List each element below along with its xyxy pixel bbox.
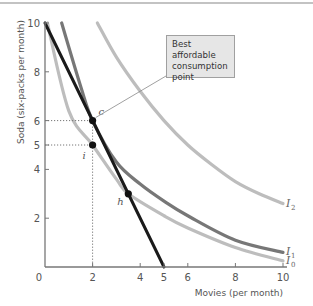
y-axis-title: Soda (six-packs per month) [16, 20, 26, 144]
curve-label-subscript: 2 [291, 204, 295, 212]
labels-layer: cihI2I1I0 [83, 106, 296, 269]
x-tick-label: 2 [89, 272, 95, 283]
point-c [89, 117, 96, 124]
callout-line-1: Best affordable [172, 39, 231, 61]
x-tick-label: 5 [161, 272, 167, 283]
guide-lines [45, 121, 93, 267]
curves-layer [45, 23, 283, 267]
point-i [89, 141, 96, 148]
x-tick-label: 8 [232, 272, 238, 283]
callout-line-2: consumption [172, 61, 231, 72]
y-tick-label: 8 [34, 67, 40, 78]
y-tick-label: 10 [27, 18, 40, 29]
curve-label-subscript: 0 [291, 261, 295, 269]
x-tick-label: 0 [36, 272, 42, 283]
y-tick-label: 4 [34, 164, 40, 175]
callout-line-3: point [172, 72, 231, 83]
y-tick-label: 2 [34, 213, 40, 224]
best-affordable-point-callout: Best affordable consumption point [166, 35, 235, 78]
x-tick-label: 4 [137, 272, 143, 283]
point-label-h: h [117, 196, 123, 207]
curve-label-subscript: 1 [291, 252, 295, 260]
indifference-curve-chart: 024568102456810Movies (per month)Soda (s… [0, 0, 313, 306]
point-h [125, 190, 132, 197]
point-label-i: i [83, 150, 86, 161]
y-tick-label: 6 [34, 116, 40, 127]
y-tick-label: 5 [34, 140, 40, 151]
x-tick-label: 10 [277, 272, 290, 283]
x-axis-title: Movies (per month) [195, 288, 283, 298]
budget-line [45, 23, 164, 267]
x-tick-label: 6 [185, 272, 191, 283]
